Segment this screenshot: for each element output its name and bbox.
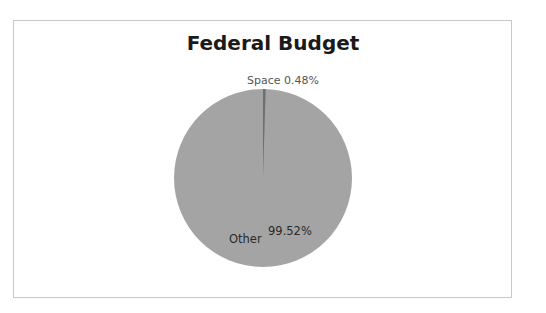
other-category-label: Other	[229, 232, 262, 246]
space-data-label: Space 0.48%	[247, 74, 319, 87]
other-value-label: 99.52%	[268, 224, 312, 238]
pie-chart	[0, 0, 546, 313]
